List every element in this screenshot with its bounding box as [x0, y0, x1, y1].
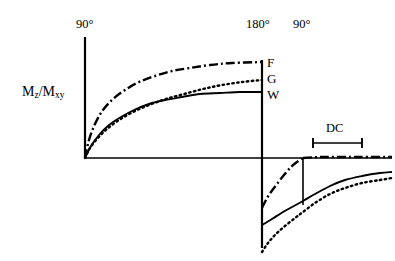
curve-label-w: W — [267, 88, 279, 101]
y-axis-label-mid: /M — [39, 84, 55, 99]
pulse-label-90-second: 90° — [293, 18, 311, 31]
curve-f-inverted-recovery — [262, 158, 303, 208]
axes-group — [85, 37, 392, 158]
curve-label-g: G — [267, 72, 276, 85]
curve-g-inverted-recovery — [262, 178, 392, 252]
dc-span-label: DC — [326, 122, 343, 135]
dc-span-marker — [313, 138, 362, 148]
y-axis-label-sub-xy: xy — [55, 90, 65, 100]
curve-label-f: F — [267, 56, 274, 69]
pulse-label-180: 180° — [246, 18, 270, 31]
curve-f-recovery-after-90 — [85, 62, 262, 158]
curves-group — [85, 62, 392, 252]
pulse-label-90-first: 90° — [76, 18, 94, 31]
y-axis-label-text: M — [22, 84, 34, 99]
y-axis-label: Mz/Mxy — [22, 85, 65, 101]
figure-root: Mz/Mxy 90° 180° 90° F G W DC — [0, 0, 395, 261]
